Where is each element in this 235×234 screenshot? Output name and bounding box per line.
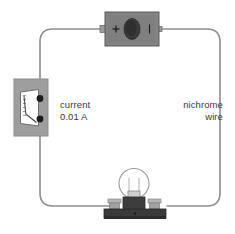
battery-oval-emblem-inner xyxy=(126,20,137,36)
label-nichrome-line2: wire xyxy=(183,111,223,123)
label-nichrome-line1: nichrome xyxy=(183,99,223,111)
wire-segment-ammeter-to-lamp xyxy=(40,119,110,206)
label-current: current 0.01 A xyxy=(60,99,90,122)
wire-segment-ammeter-to-battery xyxy=(40,29,104,98)
label-current-line1: current xyxy=(60,99,90,111)
battery-cell xyxy=(100,12,162,46)
ammeter-terminal-top xyxy=(37,95,44,102)
label-current-line2: 0.01 A xyxy=(60,111,90,123)
lamp-terminal-post-right-top xyxy=(148,199,161,203)
lamp-base-shadow xyxy=(104,216,166,219)
lamp-socket xyxy=(123,197,145,210)
lamp-bulb xyxy=(104,169,166,220)
lamp-base-screw xyxy=(134,212,136,214)
ammeter xyxy=(14,79,48,136)
ammeter-terminal-bottom xyxy=(37,116,44,123)
label-nichrome-wire: nichrome wire xyxy=(183,99,223,122)
lamp-terminal-post-right xyxy=(150,203,160,209)
lamp-terminal-post-left-top xyxy=(108,199,121,203)
lamp-terminal-post-left xyxy=(110,203,120,209)
circuit-diagram: current 0.01 A nichrome wire xyxy=(0,0,235,234)
